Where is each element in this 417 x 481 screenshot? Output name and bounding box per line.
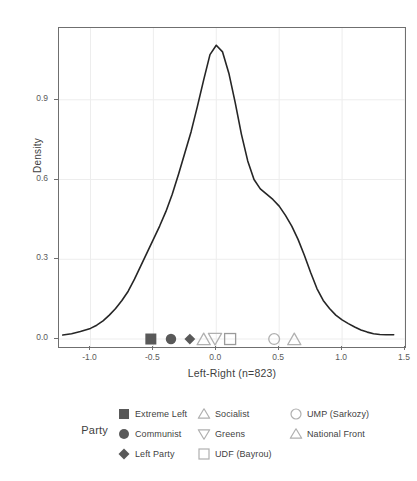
filled-square-icon	[117, 407, 131, 421]
legend-item-label: Left Party	[135, 449, 175, 459]
x-tick-mark	[89, 346, 90, 350]
legend-title: Party	[52, 424, 108, 436]
legend-column: Extreme LeftCommunistLeft Party	[113, 404, 187, 464]
party-marker-left-party[interactable]	[184, 334, 195, 345]
x-tick-label: 1.0	[316, 352, 366, 362]
legend-item-label: Socialist	[215, 409, 249, 419]
legend-item[interactable]: Communist	[113, 424, 187, 444]
x-tick-mark	[278, 346, 279, 350]
legend-item[interactable]: Extreme Left	[113, 404, 187, 424]
y-tick-label: 0.3	[8, 252, 48, 262]
legend-item-label: Extreme Left	[135, 409, 187, 419]
y-tick-label: 0.6	[8, 173, 48, 183]
open-triangle-down-icon	[197, 427, 211, 441]
x-axis-title: Left-Right (n=823)	[58, 367, 406, 379]
legend-item-label: Greens	[215, 429, 245, 439]
filled-circle-icon	[117, 427, 131, 441]
party-marker-extreme-left[interactable]	[145, 334, 156, 345]
plot-panel	[58, 27, 406, 348]
legend-item-label: UMP (Sarkozy)	[307, 409, 369, 419]
y-tick-mark	[54, 338, 58, 339]
legend-marker	[193, 404, 215, 424]
legend-marker	[285, 424, 307, 444]
legend-marker	[113, 424, 135, 444]
legend-item-label: Communist	[135, 429, 181, 439]
x-tick-label: -0.5	[127, 352, 177, 362]
y-axis-title: Density	[32, 96, 43, 216]
legend-marker	[285, 404, 307, 424]
x-tick-label: 0.0	[190, 352, 240, 362]
density-curve	[63, 45, 394, 335]
x-tick-label: 1.5	[379, 352, 417, 362]
y-tick-mark	[54, 99, 58, 100]
legend-marker	[193, 424, 215, 444]
open-circle-icon	[289, 407, 303, 421]
legend-item-label: UDF (Bayrou)	[215, 449, 272, 459]
x-tick-mark	[404, 346, 405, 350]
open-triangle-up-icon	[197, 407, 211, 421]
open-triangle-up-icon	[289, 427, 303, 441]
x-tick-mark	[215, 346, 216, 350]
y-tick-mark	[54, 258, 58, 259]
legend-marker	[193, 444, 215, 464]
open-square-icon	[197, 447, 211, 461]
legend-item-label: National Front	[307, 429, 365, 439]
filled-diamond-icon	[117, 447, 131, 461]
legend-item[interactable]: UDF (Bayrou)	[193, 444, 272, 464]
legend-marker	[113, 404, 135, 424]
legend-item[interactable]: National Front	[285, 424, 369, 444]
party-marker-communist[interactable]	[166, 334, 176, 344]
x-tick-label: -1.0	[64, 352, 114, 362]
y-tick-mark	[54, 179, 58, 180]
legend-item[interactable]: Greens	[193, 424, 272, 444]
legend-item[interactable]: Left Party	[113, 444, 187, 464]
legend: Party Extreme LeftCommunistLeft PartySoc…	[0, 402, 417, 464]
legend-marker	[113, 444, 135, 464]
gridlines	[59, 28, 405, 347]
x-tick-label: 0.5	[253, 352, 303, 362]
legend-item[interactable]: UMP (Sarkozy)	[285, 404, 369, 424]
legend-column: UMP (Sarkozy)National Front	[285, 404, 369, 444]
x-tick-mark	[152, 346, 153, 350]
plot-canvas	[59, 28, 405, 347]
density-plot-figure: Density 0.00.30.60.9 -1.0-0.50.00.51.01.…	[0, 0, 417, 481]
y-tick-label: 0.0	[8, 332, 48, 342]
y-tick-label: 0.9	[8, 93, 48, 103]
legend-item[interactable]: Socialist	[193, 404, 272, 424]
legend-column: SocialistGreensUDF (Bayrou)	[193, 404, 272, 464]
x-tick-mark	[341, 346, 342, 350]
